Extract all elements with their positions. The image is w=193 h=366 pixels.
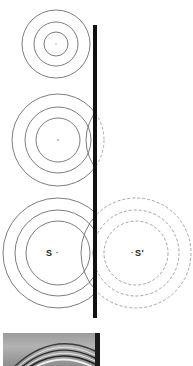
source-dot: · — [56, 249, 59, 256]
photo-barrier-strip — [95, 333, 100, 366]
source-point-1 — [55, 43, 56, 44]
image-source-dot: · — [131, 249, 134, 256]
wave-reflection-diagram — [0, 0, 193, 366]
source-point-2 — [57, 139, 58, 140]
barrier-wall — [93, 25, 97, 318]
ripple-tank-photo — [3, 333, 100, 366]
wave-group-stage-1 — [22, 10, 90, 78]
ripple-pattern — [3, 333, 100, 366]
source-label: S — [46, 248, 53, 258]
image-source-label: S' — [135, 248, 144, 258]
